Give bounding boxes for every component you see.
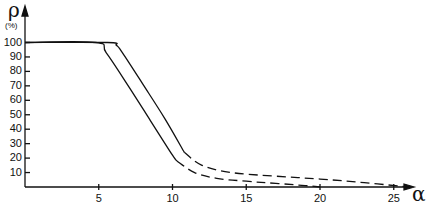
y-tick-label: 60 bbox=[0, 93, 22, 105]
x-tick-label: 20 bbox=[310, 192, 330, 204]
y-tick-label: 20 bbox=[0, 151, 22, 163]
y-axis-unit: (%) bbox=[5, 21, 17, 30]
y-tick-label: 70 bbox=[0, 79, 22, 91]
curves bbox=[25, 42, 409, 187]
y-tick-label: 40 bbox=[0, 122, 22, 134]
x-axis-symbol: α bbox=[412, 182, 426, 206]
y-tick-label: 30 bbox=[0, 137, 22, 149]
y-tick-label: 50 bbox=[0, 108, 22, 120]
x-tick-label: 5 bbox=[89, 192, 109, 204]
y-axis-symbol: ρ bbox=[8, 0, 20, 22]
y-tick-label: 100 bbox=[0, 36, 22, 48]
y-tick-label: 80 bbox=[0, 64, 22, 76]
y-tick-label: 90 bbox=[0, 50, 22, 62]
x-tick-label: 15 bbox=[236, 192, 256, 204]
x-tick-label: 10 bbox=[163, 192, 183, 204]
y-axis-arrow-icon bbox=[22, 6, 28, 16]
curve-right-dashed-line bbox=[184, 152, 408, 187]
y-tick-label: 10 bbox=[0, 166, 22, 178]
axes bbox=[22, 6, 414, 190]
chart-canvas bbox=[0, 0, 433, 212]
x-tick-label: 25 bbox=[384, 192, 404, 204]
curve-left-dashed-line bbox=[177, 161, 320, 187]
